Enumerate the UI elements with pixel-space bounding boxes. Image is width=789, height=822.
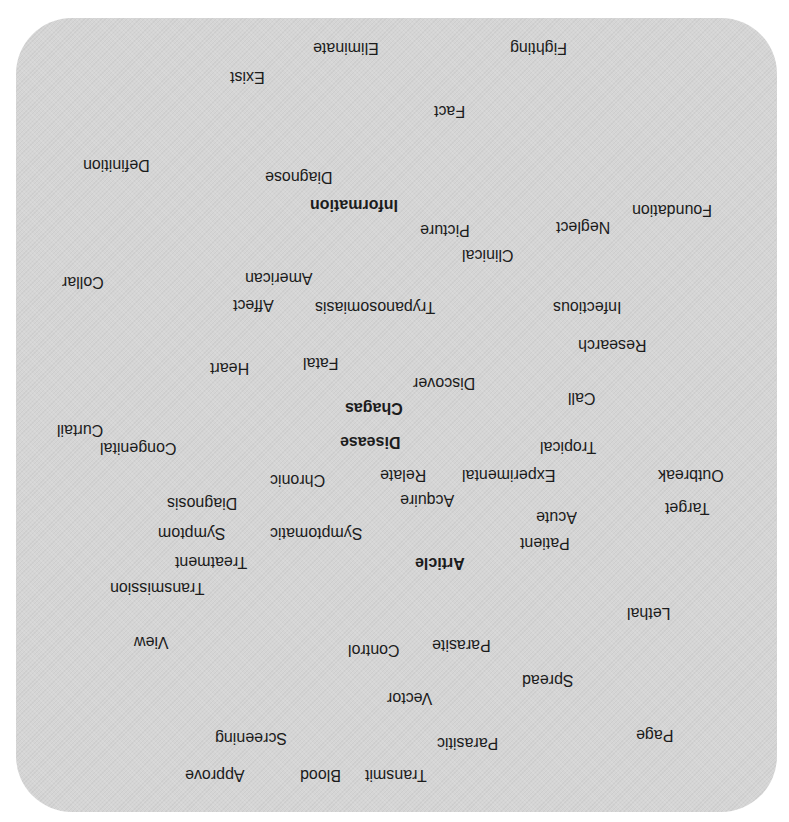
- word-vector: Vector: [387, 688, 432, 708]
- word-chagas: Chagas: [345, 398, 403, 418]
- word-american: American: [245, 268, 313, 288]
- word-trypanosomiasis: Trypanosomiasis: [315, 297, 435, 317]
- word-target: Target: [665, 498, 709, 518]
- word-picture: Picture: [420, 220, 470, 240]
- word-diagnosis: Diagnosis: [167, 493, 237, 513]
- word-diagnose: Diagnose: [265, 167, 333, 187]
- word-congenital: Congenital: [100, 438, 177, 458]
- word-definition: Definition: [83, 155, 150, 175]
- word-affect: Affect: [233, 295, 274, 315]
- word-symptomatic: Symptomatic: [270, 523, 362, 543]
- word-outbreak: Outbreak: [658, 465, 724, 485]
- word-fact: Fact: [434, 101, 465, 121]
- word-blood: Blood: [300, 765, 341, 785]
- word-view: View: [134, 632, 168, 652]
- word-research: Research: [578, 335, 646, 355]
- word-treatment: Treatment: [175, 552, 247, 572]
- word-control: Control: [348, 640, 400, 660]
- word-disease: Disease: [340, 432, 401, 452]
- word-patient: Patient: [520, 533, 570, 553]
- word-clinical: Clinical: [462, 245, 514, 265]
- word-heart: Heart: [210, 358, 249, 378]
- word-discover: Discover: [413, 373, 475, 393]
- word-relate: Relate: [380, 465, 426, 485]
- word-information: Information: [310, 195, 398, 215]
- word-call: Call: [568, 388, 596, 408]
- word-approve: Approve: [185, 765, 245, 785]
- word-symptom: Symptom: [158, 523, 226, 543]
- word-fighting: Fighting: [510, 38, 567, 58]
- word-screening: Screening: [215, 728, 287, 748]
- word-page: Page: [636, 725, 673, 745]
- word-transmission: Transmission: [110, 578, 205, 598]
- word-neglect: Neglect: [556, 217, 610, 237]
- word-eliminate: Eliminate: [313, 38, 379, 58]
- word-foundation: Foundation: [632, 200, 712, 220]
- word-exist: Exist: [230, 67, 265, 87]
- word-collar: Collar: [62, 272, 104, 292]
- word-parasite: Parasite: [432, 635, 491, 655]
- word-chronic: Chronic: [270, 470, 325, 490]
- word-curtail: Curtail: [57, 420, 103, 440]
- word-acquire: Acquire: [400, 490, 454, 510]
- word-article: Article: [415, 553, 465, 573]
- word-transmit: Transmit: [365, 765, 427, 785]
- word-parasitic: Parasitic: [437, 733, 498, 753]
- word-acute: Acute: [536, 507, 577, 527]
- word-lethal: Lethal: [627, 603, 671, 623]
- word-spread: Spread: [522, 670, 574, 690]
- word-fatal: Fatal: [303, 353, 339, 373]
- word-experimental: Experimental: [462, 465, 555, 485]
- word-tropical: Tropical: [540, 437, 596, 457]
- word-infectious: Infectious: [553, 297, 621, 317]
